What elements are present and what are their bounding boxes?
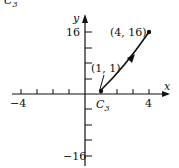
chart-canvas: C3 x y −4 4 16 −16 (1, 1) (0, 0, 179, 168)
y-tick-label-neg16: −16 (63, 150, 86, 163)
x-axis-label: x (164, 80, 171, 93)
end-point-label: (4, 16) (110, 26, 147, 39)
y-tick-label-16: 16 (66, 26, 80, 39)
curve-label: C3 (96, 98, 110, 113)
start-point (99, 89, 103, 93)
corner-title: C3 (4, 0, 18, 9)
curve-c3 (101, 32, 149, 90)
y-axis-arrow-icon (82, 14, 88, 23)
x-tick-label-4: 4 (145, 97, 152, 110)
x-tick-label-neg4: −4 (10, 97, 26, 110)
y-axis-label: y (72, 12, 80, 25)
start-point-label: (1, 1) (91, 62, 121, 75)
end-point (147, 30, 151, 34)
